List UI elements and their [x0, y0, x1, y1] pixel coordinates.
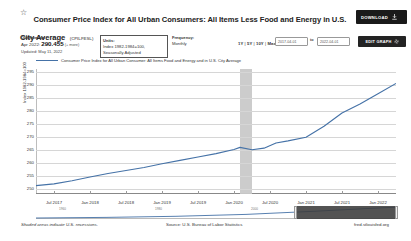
observation-more-link[interactable]: (+ more) [65, 43, 79, 47]
observation-value: 290.455 [41, 40, 63, 47]
meta-bar: Observation Apr 2022: 290.455 (+ more) U… [0, 34, 411, 58]
mini-navigator[interactable]: 1960 1980 2000 [36, 206, 396, 221]
observation-date: Apr 2022: [21, 42, 40, 47]
x-axis-tick-label: Jul 2019 [178, 200, 218, 205]
range-option-10y[interactable]: 10Y [256, 41, 264, 46]
y-axis-tick-label: 285 [10, 96, 34, 100]
observation-block: Observation Apr 2022: 290.455 (+ more) U… [21, 35, 91, 55]
star-icon[interactable]: ☆ [20, 8, 29, 17]
units-block[interactable]: Units: Index 1982-1984=100, Seasonally A… [100, 35, 168, 58]
observation-updated: Updated: May 11, 2022 [21, 49, 91, 55]
y-axis-tick-label: 250 [10, 187, 34, 191]
download-button[interactable]: DOWNLOAD [356, 10, 407, 24]
frequency-value: Monthly [172, 41, 187, 46]
range-option-5y[interactable]: 5Y [247, 41, 252, 46]
y-axis-tick-label: 280 [10, 109, 34, 113]
x-axis-tick-label: Jul 2018 [106, 200, 146, 205]
x-axis-tick-label: Jan 2022 [358, 200, 398, 205]
date-from-input[interactable]: 2017-04-01 [275, 37, 308, 46]
mini-tick-label: 2000 [250, 207, 259, 211]
gear-icon [394, 39, 399, 44]
recession-note: Shaded areas indicate U.S. recessions. [21, 222, 98, 227]
x-axis-tick-label: Jul 2021 [322, 200, 362, 205]
x-axis-tick-label: Jan 2020 [214, 200, 254, 205]
y-axis-tick-label: 265 [10, 148, 34, 152]
mini-tick-label: 1960 [58, 207, 67, 211]
x-axis-tick-label: Jan 2019 [142, 200, 182, 205]
chart-footer: Shaded areas indicate U.S. recessions. S… [0, 222, 411, 234]
y-axis-tick-label: 255 [10, 174, 34, 178]
y-axis-tick-label: 295 [10, 70, 34, 74]
legend-color-swatch [36, 60, 58, 61]
edit-graph-label: EDIT GRAPH [366, 39, 392, 44]
series-line [36, 69, 396, 194]
x-axis-tick-label: Jul 2017 [34, 200, 74, 205]
page-header: ☆ Consumer Price Index for All Urban Con… [0, 4, 411, 32]
mini-handle-left[interactable] [294, 206, 297, 219]
range-option-1y[interactable]: 1Y [238, 41, 243, 46]
mini-handle-right[interactable] [395, 206, 398, 219]
x-axis-tick-label: Jan 2021 [286, 200, 326, 205]
range-separator: | [254, 41, 255, 46]
chart-legend: Consumer Price Index for All Urban Consu… [36, 58, 241, 63]
download-icon [392, 14, 397, 20]
range-selector: 1Y | 5Y | 10Y | Max [238, 41, 276, 46]
x-axis-tick-label: Jan 2018 [70, 200, 110, 205]
y-axis-tick-label: 290 [10, 83, 34, 87]
mini-tick-label: 1980 [154, 207, 163, 211]
edit-graph-button[interactable]: EDIT GRAPH [358, 36, 406, 47]
frequency-block: Frequency: Monthly [172, 35, 222, 47]
y-axis-tick-label: 260 [10, 161, 34, 165]
fred-url: fred.stlouisfed.org [354, 222, 389, 227]
mini-selection-window[interactable] [295, 206, 396, 219]
y-axis-tick-label: 275 [10, 122, 34, 126]
source-note: Source: U.S. Bureau of Labor Statistics [166, 222, 242, 227]
download-button-label: DOWNLOAD [361, 15, 388, 20]
chart-area: Consumer Price Index for All Urban Consu… [0, 58, 411, 204]
date-to-input[interactable]: 2022-04-01 [317, 37, 350, 46]
range-separator: | [265, 41, 266, 46]
legend-label: Consumer Price Index for All Urban Consu… [61, 58, 241, 63]
y-axis-tick-label: 270 [10, 135, 34, 139]
units-value-secondary: Seasonally Adjusted [103, 50, 141, 55]
plot-canvas[interactable]: Index 1982-1984=100 25025526026527027528… [36, 69, 396, 194]
units-value: Index 1982-1984=100, [103, 44, 145, 49]
date-range-to-label: to [310, 38, 314, 42]
fred-chart-page: ☆ Consumer Price Index for All Urban Con… [0, 0, 411, 241]
x-axis-tick-label: Jul 2020 [250, 200, 290, 205]
range-separator: | [245, 41, 246, 46]
